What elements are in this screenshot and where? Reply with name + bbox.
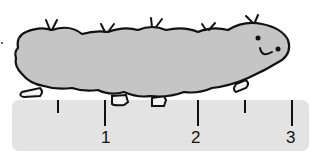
illustration-canvas: [0, 0, 311, 157]
hair: [246, 16, 252, 22]
ruler-label-3: 3: [286, 128, 295, 148]
foot: [20, 88, 42, 97]
ruler-label-1: 1: [101, 128, 110, 148]
eye-icon: [256, 36, 261, 41]
stray-mark: [1, 42, 3, 44]
hair: [156, 19, 162, 27]
foot: [112, 95, 128, 105]
ruler-body: [12, 100, 309, 151]
hair: [255, 15, 258, 22]
worksheet-illustration: 1 2 3: [0, 0, 311, 157]
ruler: [12, 100, 309, 151]
eye-icon: [276, 47, 281, 52]
ruler-label-2: 2: [191, 128, 200, 148]
hair: [151, 18, 152, 27]
